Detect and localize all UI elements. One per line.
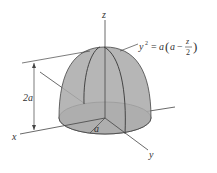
svg-text:z: z: [185, 37, 190, 46]
y-axis-label: y: [148, 149, 154, 160]
svg-text:y: y: [138, 41, 144, 52]
svg-text:=: =: [151, 41, 157, 52]
arrow-up-icon: [32, 63, 36, 68]
z-axis-label: z: [101, 9, 106, 20]
svg-text:a: a: [170, 41, 175, 52]
radius-label: a: [94, 123, 99, 134]
equation-leader: [120, 44, 138, 51]
paraboloid-diagram: z x y 2a a y 2 = a ( a − z 2 ): [0, 0, 217, 173]
equation: y 2 = a ( a − z 2 ): [138, 37, 197, 57]
svg-text:): ): [193, 39, 197, 54]
svg-text:(: (: [165, 39, 169, 54]
arrow-down-icon: [32, 125, 36, 130]
height-label: 2a: [23, 92, 33, 103]
x-axis-label: x: [11, 131, 17, 142]
svg-text:2: 2: [186, 48, 190, 57]
svg-text:−: −: [177, 41, 183, 52]
svg-text:2: 2: [145, 40, 148, 46]
svg-text:a: a: [159, 41, 164, 52]
